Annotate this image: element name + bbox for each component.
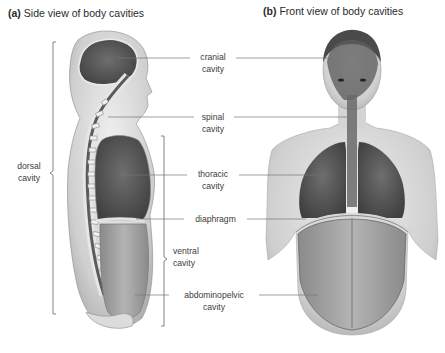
cranial-cavity-label: cranial cavity: [192, 51, 234, 75]
ventral-line2: cavity: [173, 257, 207, 269]
ventral-bracket: [161, 136, 167, 326]
panel-b-letter: (b): [263, 5, 276, 17]
spinal-line2: cavity: [194, 123, 232, 135]
ventral-cavity-label: ventral cavity: [173, 245, 207, 269]
panel-b-title-text: Front view of body cavities: [279, 5, 403, 17]
dorsal-cavity-label: dorsal cavity: [12, 160, 46, 184]
abdominopelvic-cavity-label: abdominopelvic cavity: [171, 289, 257, 313]
abdominopelvic-line2: cavity: [171, 301, 257, 313]
side-view-figure: [67, 31, 154, 328]
spinal-line1: spinal: [194, 111, 232, 123]
panel-a-title: (a)Side view of body cavities: [8, 7, 144, 19]
abdominopelvic-line1: abdominopelvic: [171, 289, 257, 301]
dorsal-bracket: [50, 42, 56, 314]
panel-a-letter: (a): [8, 7, 21, 19]
ventral-line1: ventral: [173, 245, 207, 257]
panel-b-title: (b)Front view of body cavities: [263, 5, 403, 17]
panel-a-title-text: Side view of body cavities: [24, 7, 144, 19]
diaphragm-label: diaphragm: [185, 213, 246, 225]
front-view-figure: [266, 30, 438, 335]
cranial-line2: cavity: [192, 63, 234, 75]
thoracic-cavity-label: thoracic cavity: [188, 168, 238, 192]
diaphragm-line1: diaphragm: [185, 213, 246, 225]
dorsal-line1: dorsal: [12, 160, 46, 172]
cranial-line1: cranial: [192, 51, 234, 63]
spinal-cavity-label: spinal cavity: [194, 111, 232, 135]
dorsal-line2: cavity: [12, 172, 46, 184]
thoracic-line1: thoracic: [188, 168, 238, 180]
thoracic-line2: cavity: [188, 180, 238, 192]
